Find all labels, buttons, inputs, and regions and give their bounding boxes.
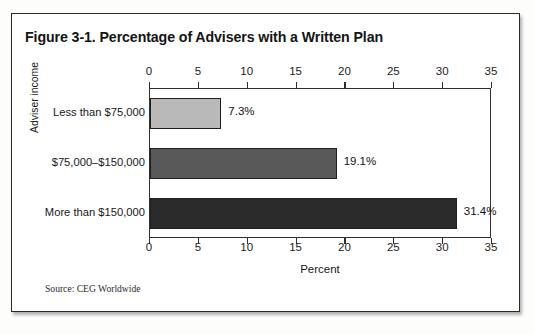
figure-title: Figure 3-1. Percentage of Advisers with … (25, 29, 383, 45)
axis-tick-label: 25 (387, 241, 400, 253)
bar-value-label: 19.1% (344, 155, 377, 167)
x-axis-title: Percent (149, 263, 491, 275)
category-label: More than $150,000 (20, 206, 145, 218)
axis-tick-label: 20 (338, 65, 351, 77)
axis-tick-label: 5 (195, 65, 201, 77)
axis-tick-label: 15 (289, 65, 302, 77)
axis-tick-label: 35 (485, 65, 498, 77)
bar-row: 19.1% (150, 139, 490, 189)
top-axis-tick-labels: 05101520253035 (149, 65, 491, 81)
figure-frame: Figure 3-1. Percentage of Advisers with … (11, 13, 520, 312)
axis-tick-label: 20 (338, 241, 351, 253)
axis-tick-label: 0 (146, 241, 152, 253)
axis-tick (491, 82, 492, 88)
axis-tick-label: 15 (289, 241, 302, 253)
axis-tick-label: 5 (195, 241, 201, 253)
axis-tick-label: 10 (240, 241, 253, 253)
source-note: Source: CEG Worldwide (45, 283, 141, 294)
axis-tick-label: 30 (436, 241, 449, 253)
bar-row: 31.4% (150, 189, 490, 239)
category-label: Less than $75,000 (20, 106, 145, 118)
bar (150, 198, 457, 229)
category-label: $75,000–$150,000 (20, 156, 145, 168)
bar-value-label: 31.4% (464, 205, 497, 217)
bar-value-label: 7.3% (228, 105, 254, 117)
bottom-axis-tick-labels: 05101520253035 (149, 241, 491, 257)
category-labels: Less than $75,000$75,000–$150,000More th… (16, 88, 145, 238)
axis-tick-label: 10 (240, 65, 253, 77)
bar (150, 98, 221, 129)
bar-row: 7.3% (150, 89, 490, 139)
plot-area: 7.3%19.1%31.4% (149, 88, 491, 238)
axis-tick-label: 30 (436, 65, 449, 77)
axis-tick-label: 35 (485, 241, 498, 253)
axis-tick-label: 0 (146, 65, 152, 77)
bar (150, 148, 337, 179)
axis-tick-label: 25 (387, 65, 400, 77)
